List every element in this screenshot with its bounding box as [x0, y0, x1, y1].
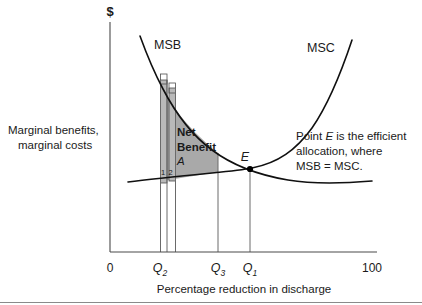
x-axis-title: Percentage reduction in discharge: [157, 283, 332, 295]
y-axis-label-line2: marginal costs: [18, 139, 92, 151]
msb-curve-label: MSB: [154, 38, 181, 52]
net-benefit-label-line2: Benefit: [177, 141, 216, 153]
x-tick-label-q2-base: Q: [153, 261, 163, 275]
x-tick-label-q3: Q3: [211, 261, 226, 278]
chart-canvas: $ MSB MSC Net Benefit A 1 2 E Point E is…: [0, 0, 422, 305]
figure-marginal-benefits-costs: $ MSB MSC Net Benefit A 1 2 E Point E is…: [0, 0, 422, 305]
net-benefit-area-label: A: [176, 155, 185, 167]
annotation-line-1: Point E is the efficient: [296, 130, 407, 142]
annotation-line-1-prefix: Point: [296, 130, 325, 142]
x-tick-label-q3-base: Q: [211, 261, 221, 275]
x-tick-label-q1: Q1: [243, 261, 258, 278]
x-tick-label-100: 100: [362, 261, 382, 275]
annotation-line-1-suffix: is the efficient: [333, 130, 407, 142]
x-tick-label-0: 0: [107, 261, 114, 275]
annotation-line-3: MSB = MSC.: [296, 160, 363, 172]
x-tick-label-q1-sub: 1: [253, 268, 258, 278]
x-tick-label-q2: Q2: [153, 261, 168, 278]
x-tick-label-q3-sub: 3: [221, 268, 226, 278]
figure-bottom-divider: [0, 302, 422, 303]
marginal-rect-2-label: 2: [169, 168, 173, 177]
y-axis-unit-label: $: [106, 4, 114, 19]
equilibrium-point-dot: [247, 166, 253, 172]
net-benefit-label-line1: Net: [177, 126, 196, 138]
marginal-rect-1-label: 1: [161, 168, 165, 177]
equilibrium-point-label: E: [241, 150, 250, 164]
y-axis-label-line1: Marginal benefits,: [8, 124, 99, 136]
x-tick-label-q1-base: Q: [243, 261, 253, 275]
x-tick-label-q2-sub: 2: [162, 268, 168, 278]
msc-curve-label: MSC: [307, 41, 335, 55]
annotation-line-2: allocation, where: [296, 145, 382, 157]
